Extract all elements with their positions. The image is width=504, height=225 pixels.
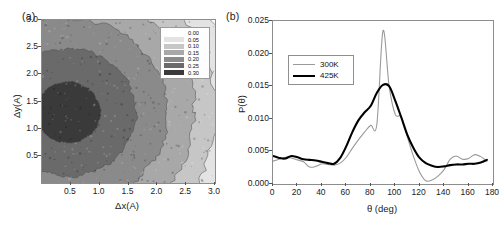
legend-label-300k: 300K bbox=[320, 59, 339, 70]
panel-b-y-tickmark bbox=[269, 118, 272, 119]
panel-b-y-tick-0.025: 0.025 bbox=[240, 15, 269, 25]
panel-a-x-tick-3.0: 3.0 bbox=[208, 186, 220, 196]
figure-root: (a) 0.000.050.100.150.200.250.30 0.51.01… bbox=[0, 0, 504, 225]
panel-b-x-tick-140: 140 bbox=[436, 187, 450, 197]
panel-a-x-tick-1.5: 1.5 bbox=[122, 186, 134, 196]
panel-b-legend: 300K 425K bbox=[288, 55, 354, 85]
contour-legend-row-0.20: 0.20 bbox=[164, 56, 207, 62]
panel-b-x-tick-0: 0 bbox=[270, 187, 275, 197]
series-line-425K bbox=[273, 84, 487, 167]
panel-a-x-tickmark bbox=[99, 182, 100, 185]
panel-b-y-tick-0.005: 0.005 bbox=[240, 145, 269, 155]
panel-a-y-axis-title: Δy(A) bbox=[11, 94, 22, 118]
panel-b-x-tick-20: 20 bbox=[292, 187, 301, 197]
contour-legend-label-0.05: 0.05 bbox=[188, 37, 199, 43]
panel-a-y-tick-2.5: 2.5 bbox=[18, 41, 38, 51]
panel-a-x-tick-1.0: 1.0 bbox=[93, 186, 105, 196]
panel-b-y-axis-title: P(θ) bbox=[236, 95, 247, 113]
panel-b-x-tickmark bbox=[321, 183, 322, 186]
panel-a-y-tickmark bbox=[38, 46, 41, 47]
contour-legend-label-0.20: 0.20 bbox=[188, 56, 199, 62]
contour-legend-label-0.25: 0.25 bbox=[188, 63, 199, 69]
panel-a-x-tickmark bbox=[214, 182, 215, 185]
contour-legend-row-0.25: 0.25 bbox=[164, 63, 207, 69]
panel-a-x-tickmark bbox=[70, 182, 71, 185]
contour-legend-swatch-0.00 bbox=[164, 31, 184, 36]
panel-b-y-tickmark bbox=[269, 150, 272, 151]
legend-swatch-425k bbox=[293, 75, 315, 77]
contour-legend-row-0.30: 0.30 bbox=[164, 70, 207, 76]
panel-b-x-tick-100: 100 bbox=[387, 187, 401, 197]
contour-legend-label-0.15: 0.15 bbox=[188, 50, 199, 56]
panel-b-x-tickmark bbox=[492, 183, 493, 186]
panel-b-x-tickmark bbox=[468, 183, 469, 186]
legend-entry-300k: 300K bbox=[293, 59, 349, 70]
legend-label-425k: 425K bbox=[320, 70, 339, 81]
panel-b-y-tick-0.010: 0.010 bbox=[240, 113, 269, 123]
panel-b-x-tickmark bbox=[394, 183, 395, 186]
panel-b-x-tick-180: 180 bbox=[485, 187, 499, 197]
contour-legend-row-0.15: 0.15 bbox=[164, 50, 207, 56]
panel-a-x-tick-2.5: 2.5 bbox=[179, 186, 191, 196]
panel-b-x-tickmark bbox=[296, 183, 297, 186]
panel-b-x-axis-title: θ (deg) bbox=[367, 203, 397, 214]
panel-b-label: (b) bbox=[226, 10, 239, 22]
contour-legend-swatch-0.15 bbox=[164, 50, 184, 55]
panel-b-line-plot bbox=[272, 20, 494, 185]
panel-a-y-tickmark bbox=[38, 73, 41, 74]
panel-a-y-tickmark bbox=[38, 155, 41, 156]
panel-b-x-tickmark bbox=[419, 183, 420, 186]
panel-a-x-tickmark bbox=[185, 182, 186, 185]
panel-a-x-axis-title: Δx(A) bbox=[115, 200, 139, 211]
legend-entry-425k: 425K bbox=[293, 70, 349, 81]
legend-swatch-300k bbox=[293, 64, 315, 65]
panel-a-y-tickmark bbox=[38, 19, 41, 20]
panel-a-y-tickmark bbox=[38, 128, 41, 129]
contour-legend-swatch-0.05 bbox=[164, 37, 184, 42]
panel-b-x-tick-80: 80 bbox=[365, 187, 374, 197]
panel-a-y-tick-2.0: 2.0 bbox=[18, 68, 38, 78]
panel-b-y-tick-0.000: 0.000 bbox=[240, 178, 269, 188]
contour-legend-row-0.00: 0.00 bbox=[164, 30, 207, 36]
panel-a-contour-legend: 0.000.050.100.150.200.250.30 bbox=[160, 27, 210, 79]
panel-b-x-tickmark bbox=[370, 183, 371, 186]
panel-b-x-tickmark bbox=[443, 183, 444, 186]
contour-legend-swatch-0.20 bbox=[164, 57, 184, 62]
contour-legend-row-0.05: 0.05 bbox=[164, 37, 207, 43]
panel-a-x-tick-0.5: 0.5 bbox=[64, 186, 76, 196]
panel-a-x-tickmark bbox=[128, 182, 129, 185]
contour-legend-swatch-0.30 bbox=[164, 70, 184, 75]
panel-b-y-tick-0.015: 0.015 bbox=[240, 80, 269, 90]
panel-b-x-tick-120: 120 bbox=[412, 187, 426, 197]
panel-b-x-tickmark bbox=[272, 183, 273, 186]
panel-b-y-tickmark bbox=[269, 53, 272, 54]
panel-a-x-tickmark bbox=[156, 182, 157, 185]
contour-legend-swatch-0.25 bbox=[164, 63, 184, 68]
contour-legend-row-0.10: 0.10 bbox=[164, 43, 207, 49]
panel-b-y-tickmark bbox=[269, 183, 272, 184]
panel-b-y-tick-0.020: 0.020 bbox=[240, 48, 269, 58]
contour-legend-label-0.00: 0.00 bbox=[188, 30, 199, 36]
panel-a-y-tick-0.5: 0.5 bbox=[18, 150, 38, 160]
panel-a-y-tick-3.0: 3.0 bbox=[18, 14, 38, 24]
contour-legend-swatch-0.10 bbox=[164, 44, 184, 49]
panel-b-x-tick-60: 60 bbox=[341, 187, 350, 197]
panel-b-x-tickmark bbox=[345, 183, 346, 186]
panel-a-y-tick-1.0: 1.0 bbox=[18, 123, 38, 133]
panel-a-x-tick-2.0: 2.0 bbox=[150, 186, 162, 196]
panel-b-y-tickmark bbox=[269, 20, 272, 21]
panel-b-y-tickmark bbox=[269, 85, 272, 86]
contour-legend-label-0.30: 0.30 bbox=[188, 70, 199, 76]
panel-b-x-tick-40: 40 bbox=[316, 187, 325, 197]
panel-b-x-tick-160: 160 bbox=[460, 187, 474, 197]
line-series-surface bbox=[273, 21, 493, 184]
panel-a-y-tickmark bbox=[38, 101, 41, 102]
contour-legend-label-0.10: 0.10 bbox=[188, 43, 199, 49]
